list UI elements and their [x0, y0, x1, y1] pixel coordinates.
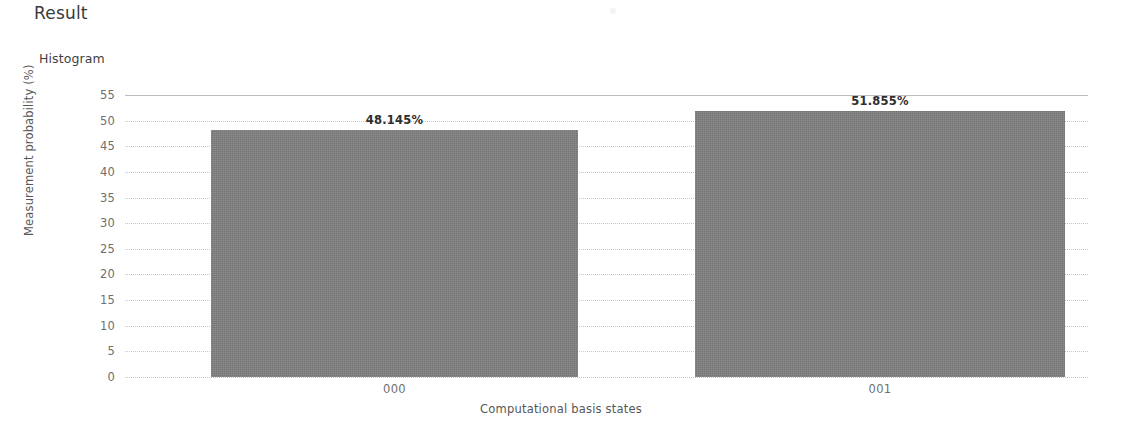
x-axis-tick-label: 000 — [383, 382, 406, 396]
x-axis-tick-label: 001 — [869, 382, 892, 396]
gridline — [125, 95, 1088, 96]
y-axis-tick-label: 0 — [73, 371, 115, 383]
y-axis-tick-label: 10 — [73, 320, 115, 332]
y-axis-tick-label: 45 — [73, 140, 115, 152]
y-axis-title: Measurement probability (%) — [22, 64, 36, 236]
plot-area: 48.145%51.855% — [125, 95, 1088, 377]
y-axis-tick-label: 55 — [73, 89, 115, 101]
y-axis-tick-label: 50 — [73, 115, 115, 127]
y-axis-tick-label: 40 — [73, 166, 115, 178]
y-axis-tick-label: 5 — [73, 345, 115, 357]
bar[interactable] — [695, 111, 1065, 377]
y-axis-tick-label: 30 — [73, 217, 115, 229]
gridline — [125, 377, 1088, 378]
x-axis-title: Computational basis states — [0, 402, 1122, 416]
bar[interactable] — [211, 130, 578, 377]
y-axis-tick-label: 25 — [73, 243, 115, 255]
bar-value-label: 51.855% — [851, 94, 908, 108]
histogram-chart: Histogram Measurement probability (%) 05… — [0, 0, 1122, 437]
y-axis-tick-label: 15 — [73, 294, 115, 306]
bar-value-label: 48.145% — [366, 113, 423, 127]
y-axis-tick-label: 20 — [73, 268, 115, 280]
y-axis-tick-label: 35 — [73, 192, 115, 204]
chart-title: Histogram — [39, 50, 105, 67]
